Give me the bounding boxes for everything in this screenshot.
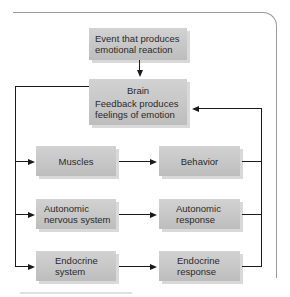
ans-line1: Autonomic <box>44 203 116 214</box>
arrow-right-icon <box>28 212 35 218</box>
endocrine-response-out-line <box>242 266 262 267</box>
event-line2: emotional reaction <box>95 44 187 55</box>
muscles-to-behavior-line <box>119 161 152 162</box>
endocrine-response-line1: Endocrine <box>177 255 240 266</box>
behavior-label: Behavior <box>181 156 219 167</box>
brain-line2: feelings of emotion <box>95 109 187 120</box>
arrow-down-icon <box>137 70 143 77</box>
arrow-right-icon <box>150 159 157 165</box>
behavior-out-line <box>242 161 262 162</box>
feedback-to-brain-line <box>196 108 262 109</box>
endocrine-line2: system <box>55 266 116 277</box>
brain-out-line <box>15 86 89 87</box>
endocrine-response-line2: response <box>177 266 240 277</box>
ans-response-out-line <box>242 214 262 215</box>
divider <box>20 292 132 294</box>
brain-line1: Feedback produces <box>95 98 187 109</box>
ans-to-response-line <box>119 214 152 215</box>
arrow-right-icon <box>28 264 35 270</box>
brain-node: Brain Feedback produces feelings of emot… <box>89 79 187 125</box>
behavior-node: Behavior <box>159 146 240 176</box>
endocrine-to-response-line <box>119 266 152 267</box>
event-node: Event that produces emotional reaction <box>89 28 187 60</box>
arrow-right-icon <box>28 159 35 165</box>
ans-node: Autonomic nervous system <box>36 199 116 229</box>
endocrine-response-node: Endocrine response <box>159 251 240 281</box>
ans-response-line1: Autonomic <box>176 203 240 214</box>
arrow-right-icon <box>150 212 157 218</box>
arrow-left-icon <box>192 106 199 112</box>
event-line1: Event that produces <box>95 33 187 44</box>
ans-response-node: Autonomic response <box>159 199 240 229</box>
arrow-right-icon <box>150 264 157 270</box>
left-trunk-line <box>15 86 16 267</box>
endocrine-node: Endocrine system <box>36 251 116 281</box>
endocrine-line1: Endocrine <box>55 255 116 266</box>
ans-response-line2: response <box>176 214 240 225</box>
muscles-label: Muscles <box>59 156 94 167</box>
right-trunk-line <box>261 108 262 267</box>
muscles-node: Muscles <box>36 146 116 176</box>
ans-line2: nervous system <box>44 214 116 225</box>
brain-title: Brain <box>95 85 187 96</box>
